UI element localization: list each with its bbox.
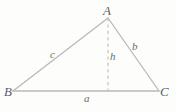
triangle-diagram: A B C c b a h <box>0 0 176 111</box>
altitude-label-h: h <box>110 51 116 62</box>
side-label-c: c <box>50 49 55 60</box>
vertex-label-c: C <box>160 85 169 98</box>
vertex-label-b: B <box>4 85 12 98</box>
side-label-b: b <box>132 41 138 52</box>
side-c-line <box>13 18 108 91</box>
side-label-a: a <box>84 93 90 104</box>
vertex-label-a: A <box>103 4 111 17</box>
